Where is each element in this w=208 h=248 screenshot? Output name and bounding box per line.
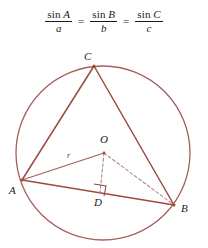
denominator-c: c [145,22,154,34]
denominator-a: a [54,22,64,34]
right-angle-marker-d [94,184,106,196]
numerator-sin-c: sin C [135,9,162,21]
angle-b: B [108,8,115,20]
label-vertex-c: C [84,50,91,62]
denominator-b: b [99,22,109,34]
sin-function-c: sin [137,8,150,20]
vertex-dot-b [173,204,176,207]
segment-radius-ob [104,153,174,205]
angle-c: C [153,8,161,20]
label-foot-d: D [94,196,102,208]
segment-perpendicular-od [100,153,104,193]
equals-sign-1: = [78,15,84,27]
angle-a: A [63,8,70,20]
geometry-figure-page: sin A a = sin B b = sin C c [0,0,208,248]
numerator-sin-b: sin B [90,9,117,21]
segment-radius-ao [22,153,104,180]
label-vertex-a: A [9,184,16,196]
fraction-sin-c-over-c: sin C c [135,9,162,34]
numerator-sin-a: sin A [45,9,72,21]
circumcircle-diagram: C A B O D r [0,36,208,248]
vertex-dot-a [21,179,24,182]
sin-function-a: sin [47,8,60,20]
label-center-o: O [100,133,108,145]
label-vertex-b: B [181,202,188,214]
label-radius-r: r [67,151,70,160]
fraction-sin-b-over-b: sin B b [90,9,117,34]
law-of-sines-formula: sin A a = sin B b = sin C c [0,6,208,36]
segment-side-ca [22,66,94,180]
center-dot-o [103,152,106,155]
sin-function-b: sin [92,8,105,20]
equals-sign-2: = [123,15,129,27]
fraction-sin-a-over-a: sin A a [45,9,72,34]
vertex-dot-c [93,65,96,68]
